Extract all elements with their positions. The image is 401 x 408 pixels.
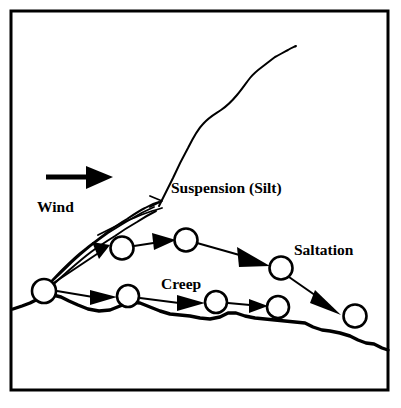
impact-point-grain bbox=[32, 279, 56, 303]
aeolian-transport-diagram: Wind Suspension (Silt) Saltation Creep bbox=[0, 0, 401, 408]
suspension-label: Suspension (Silt) bbox=[171, 179, 282, 197]
creep-grain-1 bbox=[117, 285, 139, 307]
creep-grain-2 bbox=[205, 291, 227, 313]
saltation-grain-1 bbox=[111, 237, 134, 260]
saltation-grain-2 bbox=[175, 229, 198, 252]
wind-label: Wind bbox=[37, 198, 74, 215]
creep-grain-3 bbox=[267, 296, 289, 318]
figure-root: Wind Suspension (Silt) Saltation Creep bbox=[0, 0, 401, 408]
saltation-grain-3 bbox=[270, 257, 293, 280]
creep-label: Creep bbox=[161, 275, 201, 292]
saltation-label: Saltation bbox=[294, 241, 354, 258]
saltation-grain-4 bbox=[344, 305, 367, 328]
